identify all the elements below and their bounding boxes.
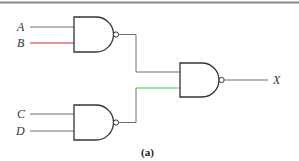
nand-gate-2: [74, 105, 119, 140]
wire-g1-to-g3: [119, 35, 180, 73]
wire-g2-up: [119, 88, 136, 123]
inverter-bubble-3: [219, 77, 224, 82]
logic-circuit-diagram: [0, 0, 299, 161]
inverter-bubble-2: [113, 120, 118, 125]
input-label-a: A: [17, 21, 24, 33]
nand-gate-3: [180, 63, 224, 97]
inverter-bubble-1: [113, 32, 118, 37]
figure-caption: (a): [141, 147, 154, 158]
nand-gate-1: [74, 17, 119, 52]
output-label-x: X: [273, 74, 280, 86]
input-label-b: B: [17, 37, 24, 49]
input-label-c: C: [17, 108, 25, 120]
input-label-d: D: [16, 125, 25, 137]
